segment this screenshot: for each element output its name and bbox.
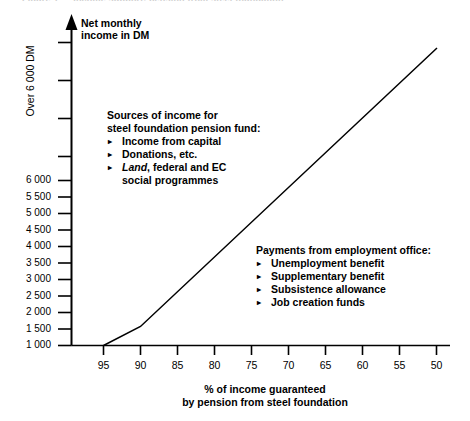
list-item: ▸ Subsistence allowance [256,283,431,296]
annotation-sources-heading-line1: Sources of income for [107,109,260,122]
ytick-label: 4 500 [3,225,51,235]
x-axis-title-line2: by pension from steel foundation [135,396,395,409]
annotation-sources-list: ▸ Income from capital ▸ Donations, etc. … [107,135,260,187]
chart-figure: Figure 1 — Income support, pension from … [0,0,470,421]
list-item: ▸ Income from capital [107,135,260,148]
xtick-label: 90 [126,360,156,371]
triangle-bullet-icon: ▸ [108,148,112,161]
xtick-label: 80 [200,360,230,371]
y-axis-ticks [58,181,72,346]
annotation-sources-of-income: Sources of income for steel foundation p… [107,109,260,187]
ytick-label: 4 000 [3,241,51,251]
list-item-label: Supplementary benefit [271,270,384,282]
list-item-label: Job creation funds [271,296,365,308]
list-item-label: Unemployment benefit [271,257,384,269]
triangle-bullet-icon: ▸ [108,135,112,148]
annotation-payments-heading: Payments from employment office: [256,244,431,257]
ytick-label: 5 000 [3,208,51,218]
chart-plot-area [0,0,470,421]
xtick-label: 55 [385,360,415,371]
xtick-label: 65 [311,360,341,371]
xtick-label: 50 [422,360,452,371]
list-item: ▸ Supplementary benefit [256,270,431,283]
xtick-label: 60 [348,360,378,371]
ytick-label: 3 500 [3,258,51,268]
list-item: ▸ Unemployment benefit [256,257,431,270]
list-item-label: Income from capital [122,135,221,147]
y-axis-ticks-upper [58,43,72,157]
list-item-label: Donations, etc. [122,148,197,160]
ytick-label: 5 500 [3,192,51,202]
ytick-label: 6 000 [3,175,51,185]
triangle-bullet-icon: ▸ [257,270,261,283]
ytick-label: 1 500 [3,324,51,334]
list-item-label-emphasis: Land [122,161,147,173]
annotation-payments-list: ▸ Unemployment benefit ▸ Supplementary b… [256,257,431,309]
xtick-label: 95 [89,360,119,371]
y-axis-title-line1: Net monthly [81,17,149,29]
list-item: ▸ Job creation funds [256,296,431,309]
x-axis-ticks [104,346,437,356]
triangle-bullet-icon: ▸ [257,296,261,309]
y-axis-title-line2: income in DM [81,29,149,41]
y-axis-title-rotated: Over 6 000 DM [24,21,36,141]
list-item: ▸ Donations, etc. [107,148,260,161]
ytick-label: 3 000 [3,274,51,284]
x-axis-title: % of income guaranteed by pension from s… [135,383,395,408]
ytick-label: 1 000 [3,340,51,350]
annotation-payments-employment-office: Payments from employment office: ▸ Unemp… [256,244,431,309]
triangle-bullet-icon: ▸ [108,161,112,174]
xtick-label: 85 [163,360,193,371]
triangle-bullet-icon: ▸ [257,257,261,270]
xtick-label: 70 [274,360,304,371]
ytick-label: 2 000 [3,307,51,317]
ytick-label: 2 500 [3,291,51,301]
x-axis-title-line1: % of income guaranteed [135,383,395,396]
list-item-label: Subsistence allowance [271,283,386,295]
y-axis-title-top: Net monthly income in DM [81,17,149,41]
list-item-label: , federal and EC [147,161,226,173]
list-item: ▸ Land, federal and EC social programmes [107,161,260,187]
list-item-label-continued: social programmes [122,174,260,187]
y-axis-arrowhead [66,14,78,30]
annotation-sources-heading-line2: steel foundation pension fund: [107,122,260,135]
triangle-bullet-icon: ▸ [257,283,261,296]
xtick-label: 75 [237,360,267,371]
